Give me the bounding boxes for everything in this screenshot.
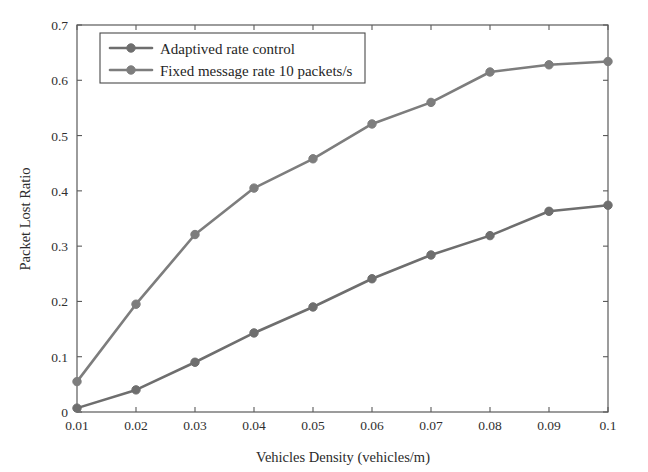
figure-container: 0.010.020.030.040.050.060.070.080.090.1 … — [0, 0, 648, 472]
y-tick-label: 0.5 — [51, 129, 68, 144]
x-tick-label: 0.04 — [242, 418, 266, 433]
data-point-marker — [191, 230, 199, 238]
y-axis-title: Packet Lost Ratio — [17, 167, 33, 270]
legend-label: Adaptived rate control — [160, 41, 295, 57]
y-tick-label: 0.7 — [51, 18, 68, 33]
data-point-marker — [604, 57, 612, 65]
data-point-marker — [368, 120, 376, 128]
data-point-marker — [132, 300, 140, 308]
x-tick-label: 0.08 — [478, 418, 502, 433]
x-tick-label: 0.1 — [600, 418, 617, 433]
data-point-marker — [545, 207, 553, 215]
data-point-marker — [486, 231, 494, 239]
legend-label: Fixed message rate 10 packets/s — [160, 63, 353, 79]
data-point-marker — [132, 386, 140, 394]
data-point-marker — [486, 68, 494, 76]
x-axis-title: Vehicles Density (vehicles/m) — [256, 449, 430, 466]
x-tick-label: 0.06 — [360, 418, 384, 433]
data-point-marker — [545, 61, 553, 69]
x-tick-label: 0.03 — [183, 418, 207, 433]
y-tick-label: 0.1 — [51, 350, 68, 365]
x-tick-label: 0.09 — [537, 418, 561, 433]
x-tick-label: 0.07 — [419, 418, 443, 433]
y-tick-label: 0 — [61, 405, 68, 420]
y-tick-label: 0.6 — [51, 73, 68, 88]
legend-marker-sample — [127, 44, 135, 52]
data-point-marker — [250, 329, 258, 337]
legend: Adaptived rate controlFixed message rate… — [100, 33, 365, 83]
line-chart: 0.010.020.030.040.050.060.070.080.090.1 … — [0, 0, 648, 472]
legend-marker-sample — [127, 66, 135, 74]
data-point-marker — [309, 303, 317, 311]
data-point-marker — [73, 404, 81, 412]
data-point-marker — [604, 201, 612, 209]
y-tick-label: 0.3 — [51, 239, 68, 254]
x-tick-label: 0.01 — [65, 418, 89, 433]
x-tick-label: 0.05 — [301, 418, 325, 433]
data-point-marker — [191, 358, 199, 366]
y-tick-label: 0.4 — [51, 184, 68, 199]
data-point-marker — [250, 184, 258, 192]
data-point-marker — [427, 98, 435, 106]
y-tick-label: 0.2 — [51, 294, 68, 309]
data-point-marker — [368, 275, 376, 283]
x-tick-label: 0.02 — [124, 418, 148, 433]
data-point-marker — [427, 251, 435, 259]
data-point-marker — [309, 155, 317, 163]
data-point-marker — [73, 377, 81, 385]
